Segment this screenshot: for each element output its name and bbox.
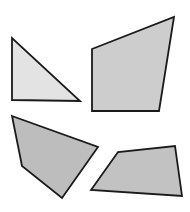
shapes-diagram (0, 0, 190, 212)
